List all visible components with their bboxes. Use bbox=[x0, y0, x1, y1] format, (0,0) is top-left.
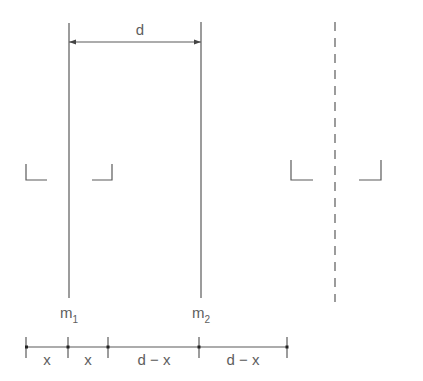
label-m2: m2 bbox=[192, 304, 211, 325]
bracket-left-a bbox=[26, 164, 47, 180]
tick-dot-1 bbox=[67, 346, 70, 349]
segment-label-x-1: x bbox=[43, 351, 51, 368]
segment-label-x-2: x bbox=[84, 351, 92, 368]
diagram-canvas: d m1 m2 x x d − x d − x bbox=[0, 0, 423, 381]
label-m1: m1 bbox=[60, 304, 79, 325]
arrowhead-right-icon bbox=[194, 40, 201, 45]
arrowhead-left-icon bbox=[69, 40, 76, 45]
segment-label-d-minus-x-1: d − x bbox=[138, 351, 171, 368]
tick-dot-2 bbox=[107, 346, 110, 349]
top-dimension: d bbox=[69, 21, 201, 45]
segment-label-d-minus-x-2: d − x bbox=[227, 351, 260, 368]
tick-dot-4 bbox=[286, 346, 289, 349]
label-d: d bbox=[136, 21, 144, 38]
bracket-left-b bbox=[92, 164, 112, 180]
bracket-right-b bbox=[359, 160, 381, 180]
tick-dot-3 bbox=[198, 346, 201, 349]
tick-dot-0 bbox=[25, 346, 28, 349]
bracket-right-a bbox=[291, 160, 313, 180]
bottom-dimension: x x d − x d − x bbox=[25, 337, 289, 368]
